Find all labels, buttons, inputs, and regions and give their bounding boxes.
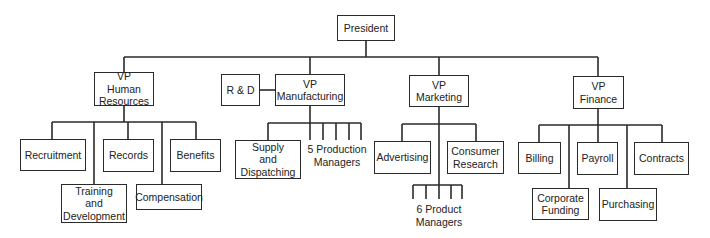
node-benefits: Benefits — [170, 139, 221, 172]
node-vp-finance: VP Finance — [573, 76, 624, 109]
node-rd: R & D — [221, 74, 260, 106]
node-president: President — [337, 15, 395, 41]
node-contracts: Contracts — [634, 142, 689, 175]
label-product-managers: 6 Product Managers — [407, 203, 471, 228]
node-training-development: Training and Development — [61, 184, 127, 223]
node-records: Records — [103, 139, 154, 172]
node-corporate-funding: Corporate Funding — [532, 188, 589, 220]
node-billing: Billing — [518, 142, 561, 174]
node-consumer-research: Consumer Research — [447, 141, 504, 174]
org-chart: President VP Human Resources R & D VP Ma… — [0, 0, 710, 238]
label-production-managers: 5 Production Managers — [306, 143, 368, 168]
node-purchasing: Purchasing — [599, 188, 657, 221]
node-vp-human-resources: VP Human Resources — [94, 72, 154, 106]
node-supply-dispatching: Supply and Dispatching — [235, 140, 301, 179]
node-vp-manufacturing: VP Manufacturing — [275, 74, 345, 106]
node-advertising: Advertising — [374, 141, 431, 174]
node-vp-marketing: VP Marketing — [409, 75, 469, 107]
node-recruitment: Recruitment — [20, 139, 86, 171]
node-compensation: Compensation — [136, 184, 202, 210]
node-payroll: Payroll — [577, 142, 618, 175]
